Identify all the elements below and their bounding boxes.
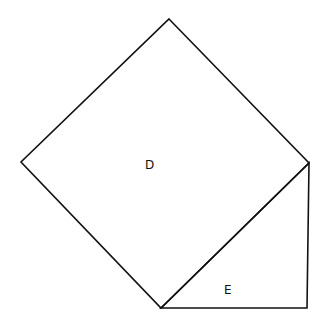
diagram-svg [0, 0, 330, 325]
label-e: E [224, 284, 232, 296]
triangle-e [161, 163, 309, 308]
diagram-canvas: D E [0, 0, 330, 325]
label-d: D [145, 159, 154, 171]
square-d [21, 19, 309, 308]
